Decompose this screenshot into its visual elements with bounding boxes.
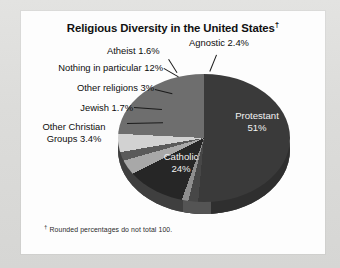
- screenshot-root: Religious Diversity in the United States…: [0, 0, 340, 268]
- slice-label-protestant: Protestant 51%: [222, 110, 292, 133]
- footnote-text: Rounded percentages do not total 100.: [49, 226, 172, 233]
- slice-label-other-christian-line1: Other Christian: [19, 121, 129, 133]
- slice-label-catholic: Catholic 24%: [150, 151, 212, 174]
- footnote-dagger-marker: †: [44, 224, 47, 230]
- slice-label-jewish: Jewish 1.7%: [21, 102, 133, 114]
- chart-title-text: Religious Diversity in the United States: [67, 22, 275, 34]
- slice-label-agnostic: Agnostic 2.4%: [189, 37, 249, 49]
- chart-title: Religious Diversity in the United States…: [21, 20, 325, 34]
- slice-label-protestant-value: 51%: [222, 122, 292, 134]
- slice-label-catholic-value: 24%: [150, 163, 212, 175]
- slice-label-protestant-name: Protestant: [222, 110, 292, 122]
- figure-card: Religious Diversity in the United States…: [21, 11, 325, 254]
- slice-label-other-religions: Other religions 3%: [21, 82, 154, 94]
- slice-label-other-christian-line2: Groups 3.4%: [19, 133, 129, 145]
- chart-footnote: † Rounded percentages do not total 100.: [44, 224, 172, 233]
- slice-label-nothing-in-particular: Nothing in particular 12%: [21, 62, 163, 74]
- slice-label-other-christian-groups: Other Christian Groups 3.4%: [19, 121, 129, 144]
- slice-label-catholic-name: Catholic: [150, 151, 212, 163]
- slice-label-atheist: Atheist 1.6%: [107, 45, 160, 57]
- title-dagger-marker: †: [275, 20, 279, 29]
